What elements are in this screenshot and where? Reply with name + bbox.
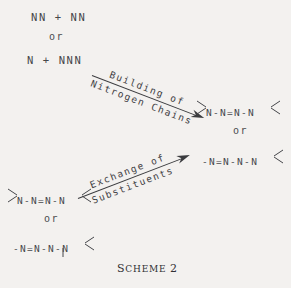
bottom-reactant-structure-1-text: N-N=N-N [17,195,66,206]
right-branch-icon [269,100,281,116]
reactant-or-1: or [49,32,64,42]
building-arrow-group: Building of Nitrogen Chains [88,64,201,127]
reactant-line-1: NN + NN [31,12,86,23]
caption-number: 2 [170,262,178,275]
product-structure-1-text: N-N=N-N [206,107,255,118]
bottom-reactant-structure-1: N-N=N-N [17,189,66,208]
product-structure-2: -N=N-N-N [202,150,258,169]
reactant-line-2: N + NNN [27,55,82,66]
right-branch-icon [80,188,92,204]
vertical-bond-icon [61,248,65,258]
scheme-figure: NN + NN or N + NNN Building of Nitrogen … [0,0,291,288]
bottom-reactant-structure-2: -N=N-N-N [13,237,69,256]
caption-word: CHEME [125,264,166,274]
left-branch-icon [7,188,19,204]
product-or: or [233,126,248,136]
product-structure-2-text: -N=N-N-N [202,156,258,167]
product-structure-1: N-N=N-N [206,101,255,120]
figure-caption: SCHEME 2 [117,262,178,275]
bottom-reactant-or: or [44,214,59,224]
right-branch-icon [272,149,284,165]
right-branch-icon [83,236,95,252]
left-branch-icon [196,100,208,116]
